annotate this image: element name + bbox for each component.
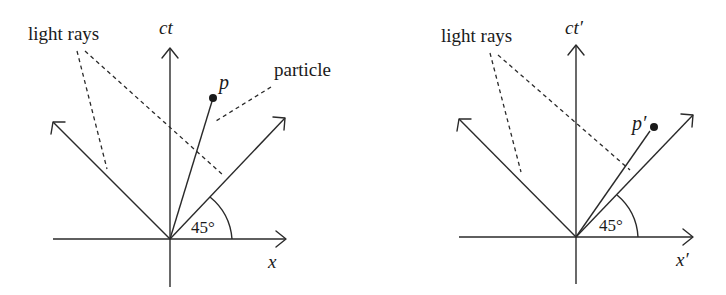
event-point-p	[209, 94, 217, 102]
light-rays-leader-2	[85, 51, 223, 175]
left-light-cone-line	[53, 122, 170, 239]
light-rays-leader-2	[498, 55, 630, 170]
x-axis-label: x	[267, 251, 277, 272]
particle-label: particle	[274, 59, 331, 80]
left-diagram: ct x light rays particle p 45°	[28, 17, 331, 287]
right-diagram: ct′ x′ light rays p′ 45°	[441, 17, 693, 284]
point-p-label: p	[217, 71, 229, 94]
ct-prime-axis-label: ct′	[565, 17, 584, 38]
angle-label: 45°	[191, 218, 215, 237]
left-light-cone-line	[459, 119, 576, 237]
light-rays-label: light rays	[28, 23, 99, 44]
point-p-prime-label: p′	[630, 112, 647, 135]
spacetime-diagrams: ct x light rays particle p 45° ct′ x′ li…	[0, 0, 726, 295]
light-rays-label: light rays	[441, 25, 512, 46]
ct-axis-label: ct	[159, 17, 173, 38]
x-prime-axis-label: x′	[675, 249, 689, 270]
event-point-p-prime	[650, 123, 658, 131]
angle-label: 45°	[599, 216, 623, 235]
